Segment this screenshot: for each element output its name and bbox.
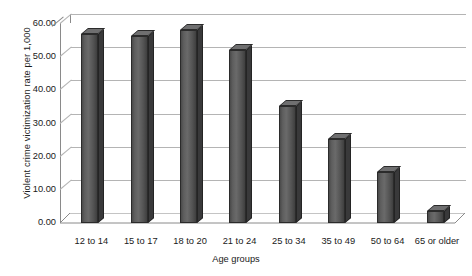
bar [131,36,148,223]
gridline [71,14,466,15]
bar-front-face [229,50,246,223]
y-axis-tick-label: 20.00 [14,151,56,161]
bar [377,172,394,223]
bar-side-face [197,25,203,223]
x-axis-tick-labels: 12 to 1415 to 1718 to 2021 to 2425 to 34… [60,236,472,252]
x-axis-tick-label: 15 to 17 [124,236,158,246]
bar-chart: Violent crime victimization rate per 1,0… [0,0,472,276]
y-axis-tick-label: 0.00 [14,217,56,227]
y-axis-tick-label: 60.00 [14,18,56,28]
y-axis-tick-labels: 0.0010.0020.0030.0040.0050.0060.00 [0,0,56,276]
y-axis-tick-label: 30.00 [14,118,56,128]
x-axis-tick-label: 21 to 24 [223,236,257,246]
bar-side-face [148,31,154,223]
bar-front-face [81,34,98,223]
bar [229,50,246,223]
x-axis-tick-label: 25 to 34 [272,236,306,246]
bar [328,139,345,223]
bar [279,106,296,223]
x-axis-tick-label: 12 to 14 [75,236,109,246]
bar-side-face [296,101,302,223]
bar-side-face [394,167,400,223]
bar-front-face [377,172,394,223]
bar-front-face [427,211,444,223]
chart-floor [60,213,466,223]
y-axis-tick-label: 40.00 [14,84,56,94]
bar-front-face [279,106,296,223]
bar [180,30,197,223]
x-axis-tick-label: 18 to 20 [173,236,207,246]
bar-side-face [98,29,104,223]
bar [81,34,98,223]
x-axis-tick-label: 35 to 49 [321,236,355,246]
bar [427,211,444,223]
bar-side-face [345,134,351,223]
plot-area [60,14,466,232]
y-axis-tick-label: 50.00 [14,51,56,61]
bar-front-face [131,36,148,223]
x-axis-tick-label: 50 to 64 [371,236,405,246]
x-axis-tick-label: 65 or older [415,236,459,246]
bar-side-face [246,45,252,223]
x-axis-title: Age groups [0,254,472,264]
bar-front-face [328,139,345,223]
y-axis-tick-label: 10.00 [14,184,56,194]
bar-front-face [180,30,197,223]
